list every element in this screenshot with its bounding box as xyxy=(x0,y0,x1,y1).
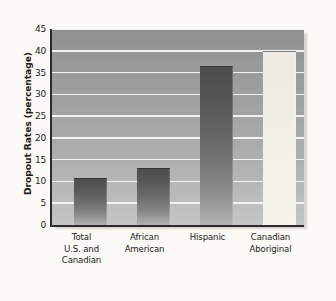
y-tick-label: 15 xyxy=(22,155,46,165)
y-tick-label: 40 xyxy=(22,46,46,56)
bar-top-edge xyxy=(263,51,296,52)
x-category-label-line: Hispanic xyxy=(176,232,239,244)
x-category-label: AfricanAmerican xyxy=(113,232,176,255)
plot-area xyxy=(52,29,304,225)
bar-chart-figure: Dropout Rates (percentage) 0510152025303… xyxy=(0,0,336,301)
y-tick-label: 45 xyxy=(22,24,46,34)
y-tick-label: 25 xyxy=(22,111,46,121)
x-category-label-line: Canadian xyxy=(239,232,302,244)
plot-frame xyxy=(50,29,304,227)
x-category-label-line: African xyxy=(113,232,176,244)
y-tick-label: 0 xyxy=(22,220,46,230)
y-tick-label: 30 xyxy=(22,89,46,99)
x-category-label: TotalU.S. andCanadian xyxy=(50,232,113,267)
bar xyxy=(137,168,170,225)
x-axis-category-labels: TotalU.S. andCanadianAfricanAmericanHisp… xyxy=(50,232,302,288)
y-tick-label: 5 xyxy=(22,198,46,208)
x-category-label-line: American xyxy=(113,244,176,256)
bar xyxy=(200,66,233,225)
y-axis-tick-labels: 051015202530354045 xyxy=(22,24,46,228)
bar xyxy=(74,178,107,225)
bar-top-edge xyxy=(137,168,170,169)
x-category-label-line: Aboriginal xyxy=(239,244,302,256)
x-category-label-line: Total xyxy=(50,232,113,244)
y-tick-label: 10 xyxy=(22,176,46,186)
gridline xyxy=(52,29,304,30)
x-category-label: CanadianAboriginal xyxy=(239,232,302,255)
y-tick-label: 20 xyxy=(22,133,46,143)
x-category-label-line: U.S. and xyxy=(50,244,113,256)
bar-top-edge xyxy=(200,66,233,67)
x-category-label: Hispanic xyxy=(176,232,239,244)
bar xyxy=(263,51,296,225)
y-tick-label: 35 xyxy=(22,68,46,78)
x-category-label-line: Canadian xyxy=(50,255,113,267)
bar-top-edge xyxy=(74,178,107,179)
